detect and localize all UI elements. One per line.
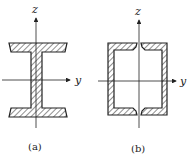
z-label-a: z: [31, 3, 38, 16]
caption-a: (a): [28, 141, 42, 152]
cross-section-diagram: z y (a) z y (b): [0, 0, 189, 163]
panel-b: z y (b): [98, 5, 187, 154]
y-label-a: y: [74, 74, 82, 87]
caption-b: (b): [131, 143, 145, 154]
z-label-b: z: [134, 5, 141, 18]
panel-a: z y (a): [2, 3, 82, 152]
right-channel-shape: [141, 43, 167, 115]
y-label-b: y: [179, 75, 187, 88]
left-channel-shape: [108, 43, 137, 115]
